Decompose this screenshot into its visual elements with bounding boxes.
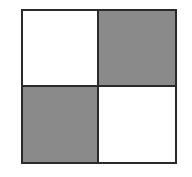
cell-bottom-right — [99, 87, 175, 163]
cell-top-left — [23, 11, 99, 87]
checkerboard-grid — [21, 9, 177, 164]
cell-bottom-left — [23, 87, 99, 163]
cell-top-right — [99, 11, 175, 87]
